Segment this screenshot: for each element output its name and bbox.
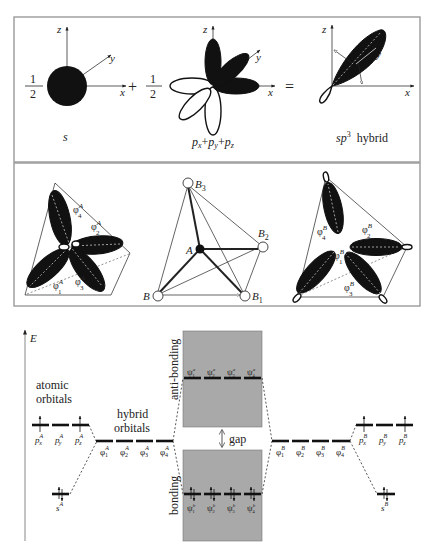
label-A: A [185,244,193,256]
bonding-band [183,450,262,541]
py-A-label: pAy [54,433,64,446]
phi2-B-level-label: φB2 [296,445,305,458]
atom-B2 [258,242,268,252]
coefficient-denominator: 2 [30,87,36,101]
psi1-a-label: ψa1 [187,367,196,378]
connector [350,425,356,441]
connector [70,441,97,494]
connector [89,425,96,441]
plus-operator: + [128,78,137,95]
z-axis-label: z [56,23,62,35]
energy-level-diagram: E atomic orbitals hybrid orbitals anti-b… [25,330,413,541]
y-axis-label: y [109,52,115,64]
phi4-A-level-label: φA4 [160,445,169,458]
atomic-orbitals-label: atomic [36,378,69,392]
psi4-a-label: ψa4 [247,367,256,378]
anti-bonding-label: anti-bonding [167,339,181,400]
atom-A-p-orbitals: pAx pAy pAz [32,416,89,446]
atom-B-p-orbitals: pBx pBy pBz [356,416,413,446]
s-A-label: sA [56,501,64,513]
atom-B-s-orbital: sB [377,487,395,513]
phi3-A-level-label: φA3 [140,445,149,458]
sp3-hybrid-label: sp3hybrid [336,130,388,145]
psi2-b-label: ψb2 [207,503,216,514]
atom-B1 [240,291,250,301]
connector [350,441,377,494]
minor-lobe [59,244,69,250]
px-B-label: pBx [358,433,368,446]
coefficient-denominator: 2 [150,87,156,101]
connector [262,378,272,441]
equals-operator: = [285,78,294,95]
phi3-B-level-label: φB3 [316,445,325,458]
phi4-B-level-label: φB4 [336,445,345,458]
atom-B3 [183,178,193,188]
z-axis-label: z [202,23,208,35]
middle-panel: φA4 φA2 φA1 φA3 B3 A B2 B B1 [14,163,420,306]
z-axis-label: z [321,23,327,35]
minor-lobe [402,245,412,250]
atom-A [196,245,205,254]
phi1-A-level-label: φA1 [100,445,109,458]
hybrid-orbitals-label: hybrid [117,407,148,421]
coefficient-numerator: 1 [150,72,156,86]
psi4-b-label: ψb4 [247,503,256,514]
phi1-B-level-label: φB1 [276,445,285,458]
hybrid-orbitals-label: orbitals [114,421,150,435]
atomic-orbitals-label: orbitals [36,392,72,406]
py-B-label: pBy [378,433,388,446]
pz-B-label: pBz [398,433,408,446]
label-B: B [143,290,150,302]
p-sum-label: px+py+pz [191,135,235,150]
psi2-a-label: ψa2 [207,367,216,378]
psi3-b-label: ψb3 [227,503,236,514]
s-B-label: sB [381,501,389,513]
bonding-label: bonding [167,476,181,515]
gap-label: gap [229,432,246,446]
psi3-a-label: ψa3 [227,367,236,378]
sp3-hybridization-figure: z x y 1 2 s + 1 2 z x y [0,0,437,553]
s-orbital-sphere [47,66,87,106]
phi2-A-level-label: φA2 [120,445,129,458]
psi1-b-label: ψb1 [187,503,196,514]
atom-A-hybrid-orbitals: φA1 φA2 φA3 φA4 [96,441,173,458]
y-axis-label: y [255,51,261,63]
atom-B [153,291,163,301]
x-axis-label: x [267,86,273,98]
top-panel: z x y 1 2 s + 1 2 z x y [14,17,420,162]
pz-A-label: pAz [74,433,84,446]
atom-A-s-orbital: sA [52,487,69,513]
minor-lobe [72,241,80,247]
coefficient-numerator: 1 [30,72,36,86]
px-A-label: pAx [34,433,44,446]
atom-B-hybrid-orbitals: φB1 φB2 φB3 φB4 [272,441,350,458]
x-axis-label: x [404,86,410,98]
connector [262,441,272,494]
x-axis-label: x [119,86,125,98]
s-label: s [63,130,68,144]
energy-axis-label: E [29,332,37,344]
